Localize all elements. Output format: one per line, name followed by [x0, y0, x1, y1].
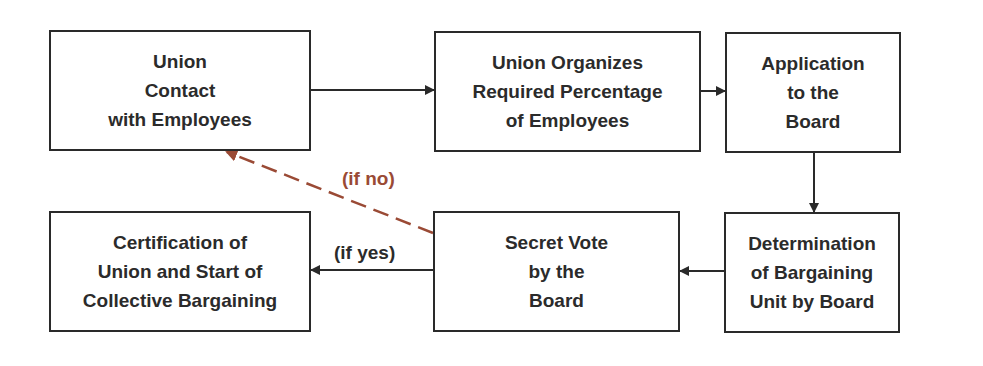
node-label: Secret Vote by the Board [505, 228, 608, 315]
node-label: Certification of Union and Start of Coll… [83, 228, 277, 315]
node-union-contact: Union Contact with Employees [49, 30, 311, 151]
node-label: Application to the Board [761, 49, 864, 136]
node-application: Application to the Board [725, 32, 901, 153]
node-determination: Determination of Bargaining Unit by Boar… [724, 212, 900, 333]
edge-label-if-no: (if no) [342, 168, 395, 190]
node-label: Determination of Bargaining Unit by Boar… [748, 229, 876, 316]
node-union-organizes: Union Organizes Required Percentage of E… [434, 31, 701, 152]
node-certification: Certification of Union and Start of Coll… [49, 211, 311, 332]
node-label: Union Organizes Required Percentage of E… [472, 48, 662, 135]
node-secret-vote: Secret Vote by the Board [433, 211, 680, 332]
node-label: Union Contact with Employees [108, 47, 252, 134]
edge-label-if-yes: (if yes) [334, 242, 395, 264]
